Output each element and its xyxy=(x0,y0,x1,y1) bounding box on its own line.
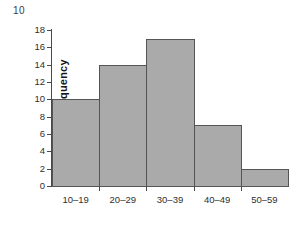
y-tick-label-text: 10 xyxy=(23,94,45,103)
x-tick-mark xyxy=(194,187,195,191)
y-tick-label: 4 xyxy=(20,146,45,155)
y-tick-label: 6 xyxy=(20,129,45,138)
y-tick-mark xyxy=(47,186,51,187)
y-tick-label-text: 0 xyxy=(23,181,45,190)
y-tick-label: 16 xyxy=(20,42,45,51)
y-tick-mark xyxy=(47,169,51,170)
y-tick-mark xyxy=(47,82,51,83)
y-tick-label-text: 16 xyxy=(23,42,45,51)
plot-area: Frequency xyxy=(52,30,288,186)
x-tick-label: 50–59 xyxy=(234,194,294,205)
y-tick-mark xyxy=(47,65,51,66)
y-tick-mark xyxy=(47,117,51,118)
histogram-bar xyxy=(194,125,242,187)
x-tick-mark xyxy=(241,187,242,191)
y-tick-mark xyxy=(47,99,51,100)
x-tick-mark xyxy=(99,187,100,191)
y-tick-label-text: 2 xyxy=(23,164,45,173)
y-tick-label: 10 xyxy=(20,94,45,103)
y-tick-label: 14 xyxy=(20,60,45,69)
histogram-bar xyxy=(99,65,147,187)
figure-number-label: 10 xyxy=(13,5,25,17)
y-tick-label-text: 6 xyxy=(23,129,45,138)
y-tick-mark xyxy=(47,30,51,31)
y-tick-label: 18 xyxy=(20,25,45,34)
y-tick-label-text: 4 xyxy=(23,146,45,155)
y-tick-label-text: 14 xyxy=(23,60,45,69)
y-tick-label: 12 xyxy=(20,77,45,86)
y-tick-mark xyxy=(47,134,51,135)
y-tick-label: 2 xyxy=(20,164,45,173)
y-tick-label-text: 12 xyxy=(23,77,45,86)
x-tick-mark xyxy=(146,187,147,191)
histogram-figure: 10 024681012141618 10–1920–2930–3940–495… xyxy=(0,0,305,233)
histogram-bar xyxy=(241,169,289,187)
y-tick-mark xyxy=(47,151,51,152)
y-tick-label-text: 8 xyxy=(23,112,45,121)
y-tick-mark xyxy=(47,47,51,48)
histogram-bar xyxy=(146,39,195,187)
histogram-bar xyxy=(52,99,100,187)
y-tick-label-text: 18 xyxy=(23,25,45,34)
y-tick-label: 0 xyxy=(20,181,45,190)
y-tick-label: 8 xyxy=(20,112,45,121)
